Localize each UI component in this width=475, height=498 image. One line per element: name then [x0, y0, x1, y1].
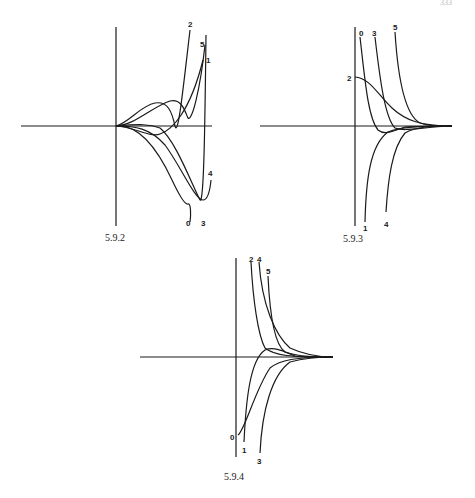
curve-label-0: 0 — [230, 433, 235, 442]
figure-caption: 5.9.3 — [343, 233, 363, 244]
curve-label-5: 5 — [200, 40, 205, 49]
curve-label-5: 5 — [393, 23, 398, 32]
curve-2 — [251, 262, 333, 357]
curve-1 — [365, 126, 452, 222]
curve-1 — [116, 60, 203, 135]
curve-4 — [386, 126, 452, 212]
curve-label-3: 3 — [257, 457, 262, 466]
figure-5-9-2: 2 5 1 4 0 3 5.9.2 — [21, 20, 213, 243]
curve-5 — [268, 276, 333, 357]
curve-label-4: 4 — [384, 220, 389, 229]
curve-5 — [395, 32, 452, 126]
curve-label-4: 4 — [208, 169, 213, 178]
curve-0 — [238, 357, 333, 435]
curve-label-1: 1 — [242, 446, 247, 455]
curve-2 — [116, 30, 190, 128]
figure-page: 2 5 1 4 0 3 5.9.2 0 3 5 2 1 4 5.9.3 — [0, 0, 475, 498]
curve-label-1: 1 — [206, 56, 211, 65]
curve-3 — [116, 35, 206, 200]
curve-label-3: 3 — [201, 219, 206, 228]
curve-label-2: 2 — [249, 255, 254, 264]
curve-3 — [375, 37, 452, 130]
curve-label-0: 0 — [186, 219, 191, 228]
curve-label-2: 2 — [188, 20, 193, 29]
curve-label-3: 3 — [372, 29, 377, 38]
curve-label-0: 0 — [359, 29, 364, 38]
curve-label-2: 2 — [347, 74, 352, 83]
figure-caption: 5.9.2 — [105, 232, 125, 243]
curve-label-5: 5 — [266, 267, 271, 276]
curve-label-1: 1 — [363, 224, 368, 233]
page-number: 333 — [440, 0, 452, 7]
curve-2 — [355, 77, 452, 126]
figure-5-9-4: 2 4 5 0 1 3 5.9.4 — [140, 255, 333, 482]
curve-label-4: 4 — [257, 255, 262, 264]
curve-0 — [116, 126, 191, 222]
figure-5-9-3: 0 3 5 2 1 4 5.9.3 — [260, 23, 452, 244]
curve-3 — [260, 357, 333, 453]
curve-5 — [116, 45, 205, 126]
figure-caption: 5.9.4 — [224, 471, 244, 482]
